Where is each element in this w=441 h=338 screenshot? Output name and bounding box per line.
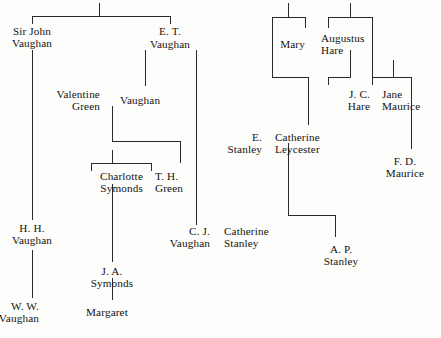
connector-line-vertical xyxy=(99,3,100,16)
person-th-green: T. H.Green xyxy=(155,170,183,195)
connector-line-vertical xyxy=(350,3,351,17)
person-mary: Mary xyxy=(280,38,305,50)
connector-line-horizontal xyxy=(372,77,412,78)
person-name-line: Symonds xyxy=(100,182,143,194)
connector-line-vertical xyxy=(112,150,113,163)
person-name-line: Stanley xyxy=(224,237,269,249)
person-name-line: F. D. xyxy=(386,155,424,167)
person-e-stanley: E.Stanley xyxy=(227,131,262,156)
connector-line-horizontal xyxy=(272,77,309,78)
connector-line-vertical xyxy=(272,17,273,77)
connector-line-vertical xyxy=(372,17,373,77)
person-name-line: Vaughan xyxy=(12,37,52,49)
connector-line-horizontal xyxy=(32,16,171,17)
person-sir-john-vaughan: Sir JohnVaughan xyxy=(12,25,52,50)
connector-line-horizontal xyxy=(288,215,336,216)
person-name-line: Green xyxy=(56,100,100,112)
person-hh-vaughan: H. H.Vaughan xyxy=(12,222,52,247)
connector-line-horizontal xyxy=(91,163,152,164)
person-catherine-leycester: CatherineLeycester xyxy=(275,131,320,156)
person-ja-symonds: J. A.Symonds xyxy=(91,265,134,290)
person-et-vaughan: E. T. xyxy=(159,25,181,37)
connector-line-vertical xyxy=(308,77,309,125)
person-name-line: Sir John xyxy=(12,25,52,37)
person-name-line: Charlotte xyxy=(100,170,143,182)
person-name-line: Vaughan xyxy=(0,312,39,324)
connector-line-vertical xyxy=(335,215,336,237)
person-ww-vaughan: W. W.Vaughan xyxy=(0,300,39,325)
person-name-line: Jane xyxy=(382,88,420,100)
person-name-line: H. H. xyxy=(12,222,52,234)
person-name-line: Hare xyxy=(321,44,364,56)
person-charlotte-symonds: CharlotteSymonds xyxy=(100,170,143,195)
person-et-vaughan-surname: Vaughan xyxy=(150,38,190,50)
family-tree-chart: Sir JohnVaughanE. T.VaughanValentineGree… xyxy=(0,0,441,338)
person-name-line: Vaughan xyxy=(170,237,210,249)
connector-line-vertical xyxy=(196,50,197,225)
connector-line-vertical xyxy=(32,50,33,220)
person-name-line: C. J. xyxy=(170,225,210,237)
person-name-line: Catherine xyxy=(224,225,269,237)
person-name-line: Augustus xyxy=(321,32,364,44)
connector-line-vertical xyxy=(305,17,306,28)
connector-line-horizontal xyxy=(112,141,181,142)
person-ap-stanley: A. P.Stanley xyxy=(324,243,359,268)
connector-line-horizontal xyxy=(272,17,306,18)
person-name-line: Hare xyxy=(348,100,370,112)
person-name-line: Maurice xyxy=(386,167,424,179)
person-name-line: Catherine xyxy=(275,131,320,143)
connector-line-vertical xyxy=(393,60,394,77)
person-valentine-green: ValentineGreen xyxy=(56,88,100,113)
person-name-line: Green xyxy=(155,182,183,194)
connector-line-vertical xyxy=(32,250,33,298)
person-augustus-hare: AugustusHare xyxy=(321,32,364,57)
person-cj-vaughan: C. J.Vaughan xyxy=(170,225,210,250)
connector-line-vertical xyxy=(170,16,171,24)
person-name-line: Vaughan xyxy=(12,234,52,246)
connector-line-vertical xyxy=(372,77,373,85)
person-name-line: Stanley xyxy=(227,143,262,155)
person-name-line: Vaughan xyxy=(120,94,160,106)
connector-line-vertical xyxy=(180,141,181,163)
connector-line-vertical xyxy=(328,77,329,85)
person-margaret: Margaret xyxy=(86,306,128,318)
person-name-line: J. C. xyxy=(348,88,370,100)
connector-line-vertical xyxy=(288,3,289,17)
person-catherine-stanley: CatherineStanley xyxy=(224,225,269,250)
connector-line-vertical xyxy=(32,16,33,24)
person-name-line: Mary xyxy=(280,38,305,50)
connector-line-horizontal xyxy=(328,77,351,78)
person-name-line: Leycester xyxy=(275,143,320,155)
person-jc-hare: J. C.Hare xyxy=(348,88,370,113)
person-name-line: Vaughan xyxy=(150,38,190,50)
person-name-line: Margaret xyxy=(86,306,128,318)
person-name-line: Stanley xyxy=(324,255,359,267)
person-name-line: Valentine xyxy=(56,88,100,100)
person-name-line: E. xyxy=(227,131,262,143)
person-name-line: Symonds xyxy=(91,277,134,289)
person-name-line: A. P. xyxy=(324,243,359,255)
connector-line-vertical xyxy=(91,163,92,171)
person-name-line: E. T. xyxy=(159,25,181,37)
person-jane-maurice: JaneMaurice xyxy=(382,88,420,113)
connector-line-vertical xyxy=(328,17,329,28)
connector-line-vertical xyxy=(112,106,113,141)
person-name-line: W. W. xyxy=(0,300,39,312)
person-fd-maurice: F. D.Maurice xyxy=(386,155,424,180)
person-name-line: J. A. xyxy=(91,265,134,277)
connector-line-vertical xyxy=(145,50,146,86)
person-name-line: Maurice xyxy=(382,100,420,112)
connector-line-vertical xyxy=(151,163,152,171)
person-vaughan-daughter: Vaughan xyxy=(120,94,160,106)
person-name-line: T. H. xyxy=(155,170,183,182)
connector-line-vertical xyxy=(112,184,113,262)
connector-line-horizontal xyxy=(328,17,373,18)
